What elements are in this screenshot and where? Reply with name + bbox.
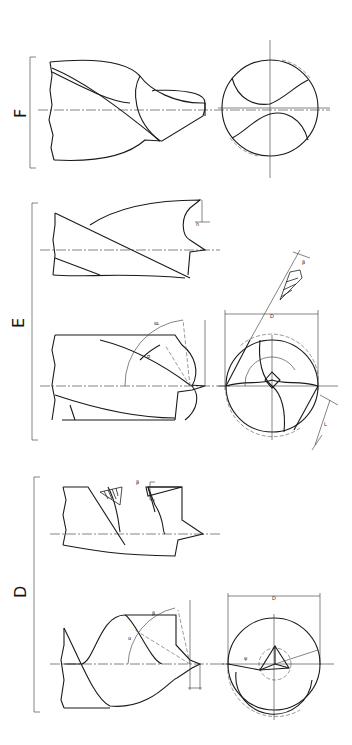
drill-drawing: F E [0, 0, 352, 745]
section-e-label: E [9, 318, 28, 328]
section-d-bracket [34, 477, 40, 712]
svg-text:β: β [153, 322, 160, 325]
section-e-bottom-view: α β [40, 320, 230, 420]
section-d-end-view: D ψ [220, 593, 334, 720]
svg-text:h: h [196, 221, 199, 227]
section-e: E h α β [9, 200, 338, 450]
svg-text:ψ: ψ [244, 655, 248, 662]
section-d-label: D [11, 586, 30, 598]
section-e-end-view: D β L [218, 250, 338, 450]
svg-text:D: D [272, 595, 276, 601]
svg-text:D: D [270, 313, 274, 319]
section-e-top-view: h [40, 200, 220, 278]
svg-text:β: β [152, 610, 155, 617]
svg-text:β: β [302, 259, 305, 266]
svg-text:β: β [136, 479, 139, 486]
section-f-end-view [218, 40, 330, 178]
svg-text:L: L [324, 421, 327, 427]
section-d-top-view: β [50, 479, 220, 556]
section-d-bottom-view: α β [50, 600, 230, 708]
section-f-side-view [49, 60, 205, 160]
svg-text:α: α [128, 635, 132, 641]
section-f: F [11, 40, 330, 178]
section-f-bracket [30, 57, 36, 168]
section-d: D β α β [11, 477, 334, 720]
section-f-label: F [11, 109, 30, 118]
section-e-bracket [32, 203, 38, 440]
